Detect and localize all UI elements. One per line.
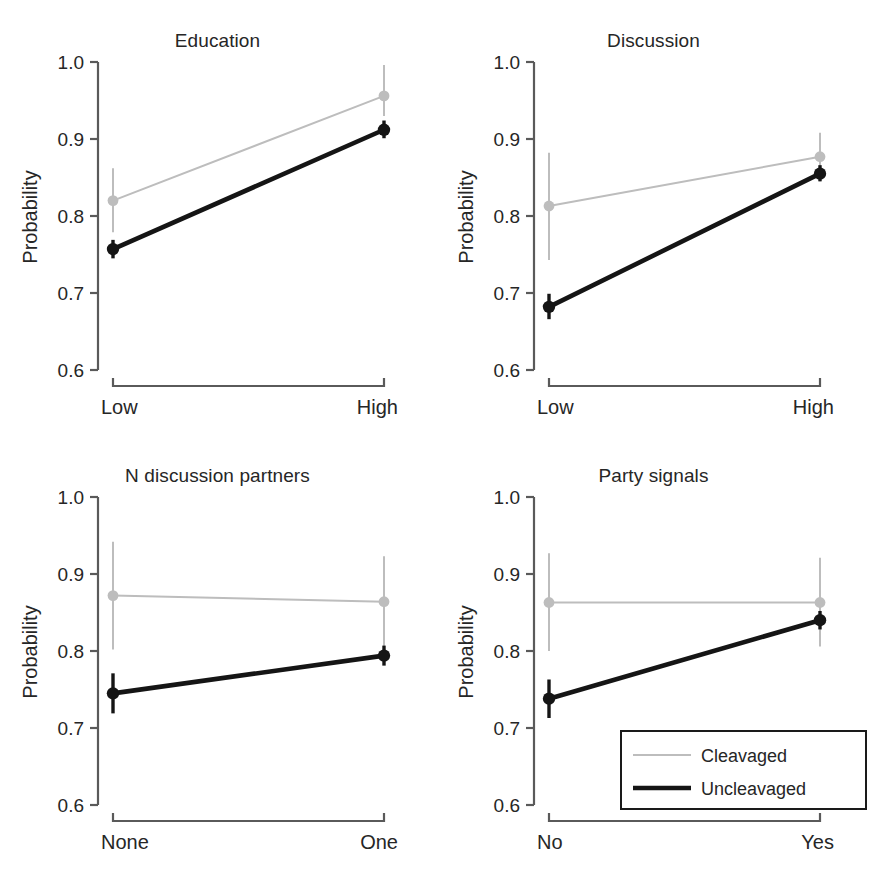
panel-n-discussion-partners: N discussion partners Probability 0.60.7… (0, 435, 435, 869)
svg-text:0.6: 0.6 (494, 795, 520, 816)
svg-text:0.9: 0.9 (494, 129, 520, 150)
svg-text:1.0: 1.0 (58, 52, 84, 73)
svg-text:0.7: 0.7 (58, 283, 84, 304)
svg-text:Low: Low (537, 396, 574, 418)
svg-text:0.7: 0.7 (494, 283, 520, 304)
svg-text:0.6: 0.6 (58, 795, 84, 816)
svg-text:High: High (357, 396, 398, 418)
svg-text:1.0: 1.0 (494, 487, 520, 508)
svg-text:0.6: 0.6 (58, 360, 84, 381)
svg-text:No: No (537, 831, 563, 853)
legend-label: Uncleavaged (701, 779, 806, 799)
svg-text:0.8: 0.8 (494, 641, 520, 662)
svg-text:None: None (101, 831, 149, 853)
plot-area-discussion: 0.60.70.80.91.0LowHigh (436, 0, 871, 434)
svg-text:0.9: 0.9 (494, 564, 520, 585)
svg-text:0.9: 0.9 (58, 129, 84, 150)
svg-text:High: High (793, 396, 834, 418)
legend-label: Cleavaged (701, 746, 787, 766)
svg-text:0.8: 0.8 (58, 641, 84, 662)
svg-text:0.8: 0.8 (58, 206, 84, 227)
figure-canvas: Education Probability 0.60.70.80.91.0Low… (0, 0, 871, 869)
svg-text:One: One (360, 831, 398, 853)
svg-text:1.0: 1.0 (58, 487, 84, 508)
panel-discussion: Discussion Probability 0.60.70.80.91.0Lo… (436, 0, 871, 434)
plot-area-n-discussion-partners: 0.60.70.80.91.0NoneOne (0, 435, 435, 869)
svg-text:0.7: 0.7 (58, 718, 84, 739)
svg-text:0.6: 0.6 (494, 360, 520, 381)
svg-text:1.0: 1.0 (494, 52, 520, 73)
svg-text:0.9: 0.9 (58, 564, 84, 585)
svg-text:0.8: 0.8 (494, 206, 520, 227)
svg-text:Yes: Yes (801, 831, 834, 853)
plot-area-party-signals: 0.60.70.80.91.0NoYesCleavagedUncleavaged (436, 435, 871, 869)
legend: CleavagedUncleavaged (621, 731, 866, 809)
plot-area-education: 0.60.70.80.91.0LowHigh (0, 0, 435, 434)
svg-text:Low: Low (101, 396, 138, 418)
panel-education: Education Probability 0.60.70.80.91.0Low… (0, 0, 435, 434)
svg-text:0.7: 0.7 (494, 718, 520, 739)
panel-party-signals: Party signals Probability 0.60.70.80.91.… (436, 435, 871, 869)
